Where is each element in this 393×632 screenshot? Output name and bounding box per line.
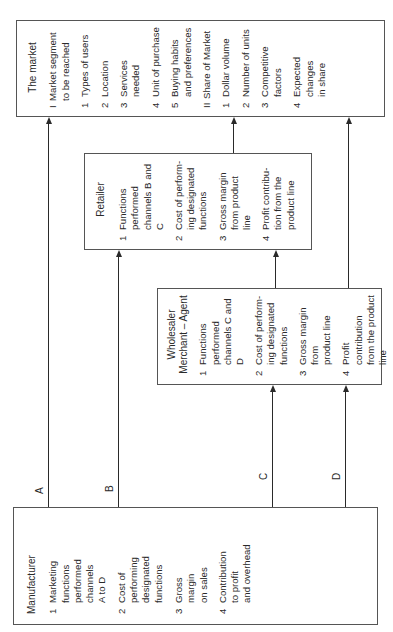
wholesaler-box: Wholesaler Merchant – Agent 1Functions p… (157, 288, 382, 385)
diagram-canvas: The market I Market segment to be reache… (0, 0, 393, 632)
market-item: 1Dollar volume (220, 27, 232, 108)
manufacturer-item: 2Cost of performing designated functions (116, 512, 165, 614)
wholesaler-item: 1Functions performed channels C and D (197, 293, 246, 376)
manufacturer-item: 1Marketing functions performed channels … (47, 512, 108, 614)
wholesaler-to-market-line (348, 124, 349, 288)
market-item: 3Services needed (118, 27, 143, 108)
market-item: 2Location (99, 27, 111, 108)
manufacturer-title: Manufacturer (26, 512, 38, 614)
market-box: The market I Market segment to be reache… (16, 20, 385, 117)
channel-a-line (48, 124, 49, 507)
retailer-item: 1Functions performed channels B and C (117, 158, 166, 241)
market-section-heading: I Market segment to be reached (47, 27, 72, 108)
market-item: 5Buying habits and preferences (169, 27, 194, 108)
wholesaler-item: 4Profit contribution from the product li… (340, 293, 389, 376)
market-item: 2Number of units (240, 27, 252, 108)
market-item: 1Types of users (79, 27, 91, 108)
market-item: 3Competitive factors (259, 27, 284, 108)
market-item: 4Unit of purchase (150, 27, 162, 108)
market-item: 4Expected changes in share (291, 27, 328, 108)
channel-d-label: D (331, 473, 342, 480)
manufacturer-item: 3Gross margin on sales (173, 512, 210, 614)
retailer-box: Retailer 1Functions performed channels B… (84, 153, 312, 250)
channel-a-label: A (34, 487, 45, 494)
arrowhead-icon (273, 250, 279, 257)
arrowhead-icon (46, 117, 52, 124)
market-section-heading: II Share of Market (201, 27, 213, 108)
wholesaler-title: Wholesaler Merchant – Agent (166, 293, 190, 376)
arrowhead-icon (116, 250, 122, 257)
retailer-item: 3Gross margin from product line (217, 158, 254, 241)
arrowhead-icon (346, 117, 352, 124)
market-title: The market (27, 27, 39, 108)
retailer-to-market-line (233, 124, 234, 153)
wholesaler-to-retailer-line (275, 257, 276, 288)
retailer-title: Retailer (95, 158, 107, 241)
wholesaler-item: 3Gross margin from product line (297, 293, 334, 376)
channel-b-label: B (104, 485, 115, 492)
retailer-item: 2Cost of perform- ing designated functio… (173, 158, 210, 241)
manufacturer-box: Manufacturer 1Marketing functions perfor… (13, 507, 378, 625)
channel-d-line (345, 392, 346, 507)
arrowhead-icon (343, 385, 349, 392)
arrowhead-icon (231, 117, 237, 124)
channel-c-label: C (258, 473, 269, 480)
manufacturer-item: 4Contribution to profit and overhead (217, 512, 254, 614)
retailer-item: 4Profit contribu- tion from the product … (260, 158, 297, 241)
arrowhead-icon (270, 385, 276, 392)
wholesaler-item: 2Cost of perform- ing designated functio… (253, 293, 290, 376)
channel-c-line (272, 392, 273, 507)
channel-b-line (118, 257, 119, 507)
